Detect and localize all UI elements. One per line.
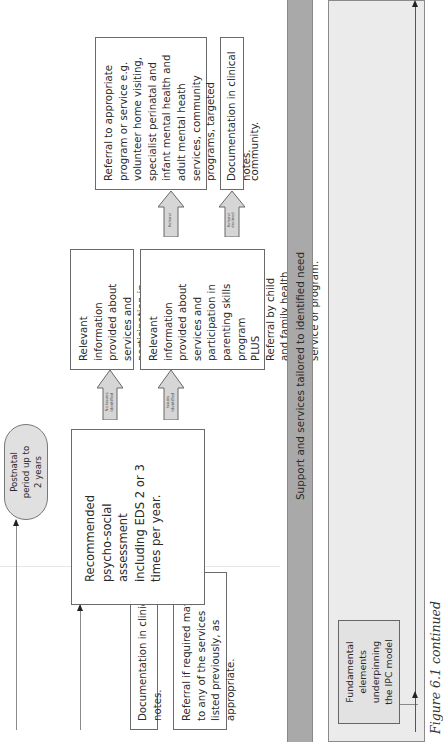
referral-arrow: Referral: [158, 191, 184, 237]
arrowhead-icon: [77, 604, 83, 611]
documentation-box-upper: Documentation in clinical notes.: [220, 37, 244, 190]
timeline-arrowhead-icon: [412, 0, 418, 7]
referral-label: Referral: [168, 207, 172, 233]
documentation-lower-text: Documentation in clinical notes.: [137, 591, 163, 721]
arrowhead-icon: [13, 519, 19, 526]
no-issues-arrow: No issues identified: [97, 370, 123, 420]
referral-declined-arrow: Referral declined: [219, 191, 245, 237]
referral-declined-label: Referral declined: [227, 207, 236, 233]
timeline-line: [415, 5, 416, 732]
connector-to-assessment-1: [80, 605, 81, 730]
plus-label: PLUS: [249, 258, 264, 361]
support-services-label: Support and services tailored to identif…: [294, 252, 306, 500]
issues-arrow: Issues identified: [158, 370, 184, 420]
relevant-info-issues-box: Relevant information provided about serv…: [140, 249, 265, 370]
postnatal-period-label: Postnatal period up to 2 years: [8, 442, 44, 502]
recommended-assessment-text: Recommended psycho-social assessment inc…: [82, 462, 165, 582]
relevant-info-no-issues-box: Relevant information provided about serv…: [70, 249, 134, 370]
connector-to-postnatal: [16, 520, 17, 730]
fundamental-elements-text: Fundamental elements underpinning the IP…: [343, 633, 395, 711]
figure-caption: Figure 6.1 continued: [428, 601, 443, 734]
recommended-assessment-box: Recommended psycho-social assessment inc…: [71, 429, 205, 605]
postnatal-period-node: Postnatal period up to 2 years: [4, 424, 48, 520]
timeline-start-arrowhead-icon: [412, 691, 418, 698]
issues-label: Issues identified: [166, 388, 175, 416]
no-issues-label: No issues identified: [105, 388, 114, 416]
fundamental-elements-box: Fundamental elements underpinning the IP…: [338, 620, 400, 724]
referral-appropriate-program-box: Referral to appropriate program or servi…: [95, 37, 207, 190]
support-services-bar: Support and services tailored to identif…: [287, 0, 313, 742]
relevant-info-issues-text: Relevant information provided about serv…: [147, 258, 249, 361]
